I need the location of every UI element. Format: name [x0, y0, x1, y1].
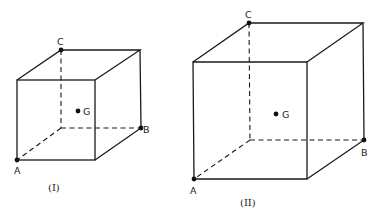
cube-2-point-a [192, 177, 197, 182]
cube-1-label-g: G [83, 106, 90, 117]
cube-1-label-c: C [57, 36, 64, 47]
cube-2-label-b: B [361, 147, 368, 158]
cube-1-front-face [17, 80, 95, 160]
cube-1: C B A G (I) [14, 36, 150, 193]
cube-1-top-face [17, 50, 140, 80]
cube-1-right-face [95, 50, 141, 160]
cube-1-hidden-edge-diagonal [17, 128, 61, 160]
cube-2-right-face [307, 23, 364, 179]
cube-1-label-a: A [14, 165, 21, 176]
cube-2-label-g: G [282, 109, 289, 120]
cube-2-top-face [193, 23, 363, 62]
cube-2-label-c: C [245, 9, 252, 20]
cube-diagram: C B A G (I) C B A G (II) [0, 0, 375, 220]
cube-1-point-g [76, 109, 81, 114]
cube-2-hidden-edge-vertical [249, 23, 250, 140]
cube-2-point-b [362, 138, 367, 143]
cube-1-caption: (I) [48, 182, 60, 193]
cube-2-point-g [274, 112, 279, 117]
cube-2-caption: (II) [240, 197, 256, 208]
cube-2-point-c [247, 21, 252, 26]
cube-1-point-a [15, 158, 20, 163]
cube-2-label-a: A [190, 185, 197, 196]
cube-2-hidden-edge-diagonal [194, 140, 250, 179]
cube-2: C B A G (II) [190, 9, 368, 208]
cube-1-point-c [59, 48, 64, 53]
cube-1-label-b: B [143, 124, 150, 135]
